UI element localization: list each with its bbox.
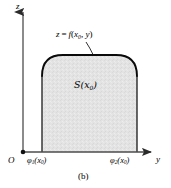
lower-bound-index: 1 — [32, 159, 35, 165]
figure-caption: (b) — [78, 172, 89, 181]
upper-bound-symbol: φ — [110, 155, 115, 165]
region-label: S(x0) — [74, 80, 97, 90]
region-shape — [42, 55, 137, 152]
region-arg-base: x — [84, 79, 89, 90]
lower-bound-label: φ1(x0) — [27, 156, 46, 165]
upper-bound-arg-sub: 0 — [124, 159, 127, 165]
curve-equation-label: z=f(x0, y) — [56, 30, 92, 39]
y-axis-label: y — [156, 155, 160, 164]
region-arg-sub: 0 — [90, 85, 94, 91]
leader-line — [86, 42, 93, 55]
curve-eq-lhs: z — [56, 29, 60, 39]
origin-label: O — [8, 156, 15, 165]
lower-bound-paren-close: ) — [44, 155, 47, 165]
curve-eq-paren-close: ) — [89, 29, 92, 39]
z-axis-label: z — [16, 2, 20, 11]
origin-point — [21, 150, 26, 155]
upper-bound-label: φ2(x0) — [110, 156, 129, 165]
region-paren-close: ) — [93, 79, 97, 90]
curve-eq-operator: = — [62, 29, 67, 39]
curve-eq-arg-sub: 0 — [78, 34, 81, 40]
figure-container: z y O z=f(x0, y) S(x0) φ1(x0) φ2(x0) (b) — [0, 0, 171, 188]
upper-bound-paren-close: ) — [127, 155, 130, 165]
lower-bound-arg-sub: 0 — [41, 159, 44, 165]
upper-bound-index: 2 — [115, 159, 118, 165]
lower-bound-symbol: φ — [27, 155, 32, 165]
